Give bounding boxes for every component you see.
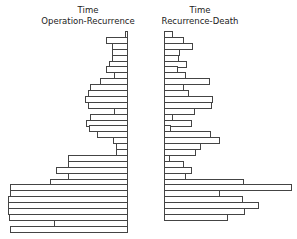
right-panel-title: Time Recurrence-Death xyxy=(160,5,240,27)
right-title-line1: Time xyxy=(160,5,240,16)
left-title-line2: Operation-Recurrence xyxy=(40,16,136,27)
left-panel-title: Time Operation-Recurrence xyxy=(40,5,136,27)
bar xyxy=(164,214,228,221)
left-title-line1: Time xyxy=(40,5,136,16)
right-title-line2: Recurrence-Death xyxy=(160,16,240,27)
bar xyxy=(10,226,128,233)
recurrence-death-bars xyxy=(164,31,297,231)
operation-recurrence-bars xyxy=(0,31,128,231)
